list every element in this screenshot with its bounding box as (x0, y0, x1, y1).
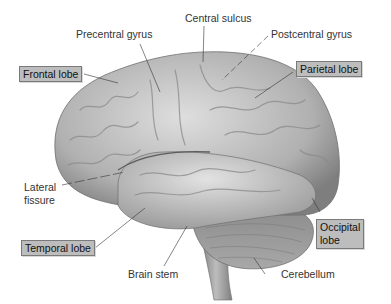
label-lateral-fissure-line1: Lateral (24, 181, 56, 193)
label-postcentral-gyrus: Postcentral gyrus (271, 28, 352, 40)
label-central-sulcus: Central sulcus (185, 12, 252, 24)
label-cerebellum: Cerebellum (281, 268, 335, 280)
label-precentral-gyrus: Precentral gyrus (76, 28, 152, 40)
label-occipital-lobe: Occipital lobe (316, 219, 364, 249)
brain-diagram: Central sulcus Precentral gyrus Postcent… (0, 0, 391, 304)
label-occipital-line2: lobe (320, 234, 340, 246)
label-brain-stem: Brain stem (128, 268, 178, 280)
label-temporal-lobe: Temporal lobe (21, 240, 95, 256)
label-parietal-lobe: Parietal lobe (296, 61, 362, 77)
brain-illustration (0, 0, 391, 304)
label-frontal-lobe: Frontal lobe (19, 66, 82, 82)
label-lateral-fissure-line2: fissure (24, 194, 55, 206)
label-occipital-line1: Occipital (320, 221, 360, 233)
